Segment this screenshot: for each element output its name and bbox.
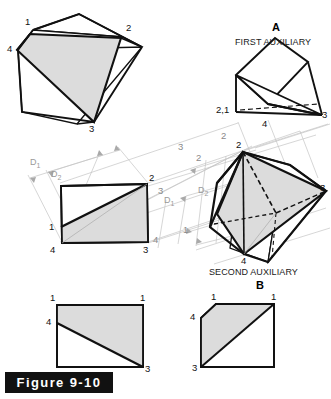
aux2-dimension-d1-sub: 1 <box>171 200 175 207</box>
front-view <box>61 184 148 243</box>
bottom-left-label-4: 4 <box>46 317 51 327</box>
pictorial-label-2: 2 <box>126 23 131 33</box>
first-auxiliary-letter: A <box>272 22 280 33</box>
second-auxiliary-title: SECOND AUXILIARY <box>209 268 298 277</box>
projection-label-2a: 2 <box>221 131 226 141</box>
bottom-left-label-1a: 1 <box>50 293 55 303</box>
bottom-left-view <box>57 305 143 367</box>
figure-caption: Figure 9-10 <box>5 372 113 393</box>
front-label-1: 1 <box>49 222 54 232</box>
front-dimension-d1: D1 <box>30 158 40 169</box>
front-dimension-d2: D2 <box>51 170 61 181</box>
bottom-right-label-3: 3 <box>192 363 197 373</box>
front-label-4: 4 <box>50 245 55 255</box>
front-dimension-d2-sub: 2 <box>58 174 62 181</box>
bottom-right-label-1b: 1 <box>271 292 276 302</box>
pictorial-label-3: 3 <box>89 124 94 134</box>
first-auxiliary-label-21: 2,1 <box>216 105 229 115</box>
front-label-3: 3 <box>143 245 148 255</box>
projection-label-3b: 3 <box>158 186 163 196</box>
aux2-label-3: 3 <box>320 183 325 193</box>
projection-label-4b: 4 <box>153 235 158 245</box>
first-auxiliary-label-3: 3 <box>322 110 327 120</box>
aux2-dimension-d2: D2 <box>198 186 208 197</box>
bottom-right-view <box>201 304 274 367</box>
projection-label-2b: 2 <box>196 153 201 163</box>
bottom-right-label-4: 4 <box>190 312 195 322</box>
aux2-dimension-d2-sub: 2 <box>205 190 209 197</box>
front-dimension-d1-sub: 1 <box>37 162 41 169</box>
aux2-dimension-d1: D1 <box>164 196 174 207</box>
figure-page: 1 2 3 4 A FIRST AUXILIARY 2,1 4 3 1 2 3 … <box>0 0 331 399</box>
pictorial-view <box>17 14 142 124</box>
aux2-label-4: 4 <box>241 256 246 266</box>
bottom-right-label-1a: 1 <box>211 292 216 302</box>
pictorial-label-4: 4 <box>7 44 12 54</box>
first-auxiliary-title: FIRST AUXILIARY <box>235 38 311 47</box>
first-auxiliary-label-4: 4 <box>262 119 267 129</box>
projection-label-1b: 1 <box>183 225 188 235</box>
second-auxiliary-view <box>210 152 326 262</box>
pictorial-label-1: 1 <box>25 17 30 27</box>
bottom-left-label-3: 3 <box>145 364 150 374</box>
projection-label-3a: 3 <box>178 142 183 152</box>
front-label-2: 2 <box>149 173 154 183</box>
first-auxiliary-view <box>236 38 322 115</box>
aux2-label-2: 2 <box>236 140 241 150</box>
bottom-left-label-1b: 1 <box>140 293 145 303</box>
second-auxiliary-letter: B <box>256 280 264 291</box>
